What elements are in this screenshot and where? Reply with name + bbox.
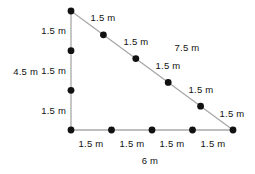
vertex-point-bottom-right: [230, 127, 237, 134]
division-point-horizontal-2: [149, 127, 156, 134]
division-point-horizontal-1: [108, 127, 115, 134]
label-vertical-total: 4.5 m: [13, 66, 38, 77]
division-point-hypotenuse-4: [197, 103, 204, 110]
label-hypotenuse-total: 7.5 m: [175, 42, 200, 53]
label-horizontal-segment-4: 1.5 m: [201, 138, 226, 149]
label-hypotenuse-segment-3: 1.5 m: [156, 60, 181, 71]
division-point-vertical-1: [68, 47, 75, 54]
label-horizontal-segment-2: 1.5 m: [120, 138, 145, 149]
label-hypotenuse-segment-5: 1.5 m: [220, 108, 245, 119]
hypotenuse-line: [71, 11, 233, 130]
division-point-horizontal-3: [189, 127, 196, 134]
label-vertical-segment-1: 1.5 m: [41, 25, 66, 36]
vertex-point-bottom-left: [68, 127, 75, 134]
label-hypotenuse-segment-2: 1.5 m: [124, 36, 149, 47]
division-point-hypotenuse-2: [132, 55, 139, 62]
vertex-point-top: [68, 8, 75, 15]
division-point-vertical-2: [68, 87, 75, 94]
label-horizontal-total: 6 m: [142, 155, 158, 166]
label-horizontal-segment-1: 1.5 m: [79, 138, 104, 149]
geometry-figure: 4.5 m 1.5 m 1.5 m 1.5 m 1.5 m 1.5 m 1.5 …: [0, 0, 255, 174]
label-hypotenuse-segment-1: 1.5 m: [91, 12, 116, 23]
division-point-hypotenuse-1: [100, 31, 107, 38]
label-vertical-segment-3: 1.5 m: [41, 105, 66, 116]
division-point-hypotenuse-3: [165, 79, 172, 86]
label-vertical-segment-2: 1.5 m: [41, 65, 66, 76]
label-hypotenuse-segment-4: 1.5 m: [189, 84, 214, 95]
label-horizontal-segment-3: 1.5 m: [160, 138, 185, 149]
